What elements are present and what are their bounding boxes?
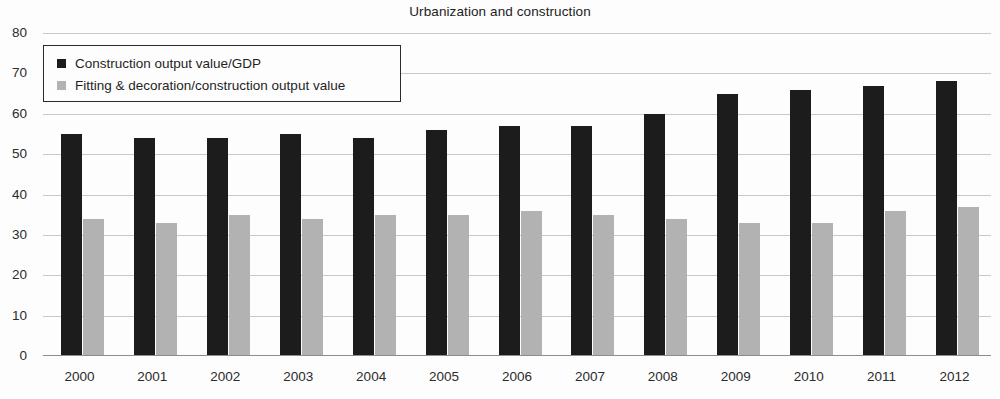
bar[interactable] — [302, 219, 323, 356]
legend-swatch-icon — [57, 81, 66, 90]
bar[interactable] — [666, 219, 687, 356]
bar[interactable] — [280, 134, 301, 356]
legend-label: Fitting & decoration/construction output… — [75, 78, 345, 93]
y-tick-label: 70 — [0, 65, 27, 80]
x-tick-label: 2010 — [779, 369, 839, 384]
legend-label: Construction output value/GDP — [75, 56, 261, 71]
bar[interactable] — [499, 126, 520, 356]
x-tick-label: 2001 — [122, 369, 182, 384]
bar[interactable] — [448, 215, 469, 356]
x-tick-label: 2009 — [706, 369, 766, 384]
bar[interactable] — [375, 215, 396, 356]
bar-group — [717, 33, 760, 356]
x-tick-label: 2004 — [341, 369, 401, 384]
bar[interactable] — [83, 219, 104, 356]
bar[interactable] — [958, 207, 979, 356]
chart-legend: Construction output value/GDPFitting & d… — [43, 45, 401, 102]
bar-group — [644, 33, 687, 356]
bar[interactable] — [426, 130, 447, 356]
bar[interactable] — [790, 90, 811, 356]
bar[interactable] — [863, 86, 884, 357]
bar-group — [499, 33, 542, 356]
x-tick-label: 2003 — [268, 369, 328, 384]
bar[interactable] — [61, 134, 82, 356]
bar[interactable] — [521, 211, 542, 356]
bar-group — [571, 33, 614, 356]
y-tick-label: 40 — [0, 187, 27, 202]
y-tick-label: 20 — [0, 267, 27, 282]
legend-entry[interactable]: Construction output value/GDP — [57, 53, 400, 74]
x-tick-label: 2008 — [633, 369, 693, 384]
y-tick-label: 80 — [0, 25, 27, 40]
bar[interactable] — [571, 126, 592, 356]
bar-group — [426, 33, 469, 356]
bar[interactable] — [885, 211, 906, 356]
bar-group — [936, 33, 979, 356]
x-tick-label: 2007 — [560, 369, 620, 384]
x-tick-label: 2005 — [414, 369, 474, 384]
chart-container: Urbanization and construction 0102030405… — [0, 0, 1000, 399]
y-tick-label: 30 — [0, 227, 27, 242]
bar-group — [790, 33, 833, 356]
x-tick-label: 2000 — [49, 369, 109, 384]
x-axis-line — [43, 355, 991, 357]
x-tick-label: 2012 — [925, 369, 985, 384]
bar[interactable] — [207, 138, 228, 356]
bar-group — [863, 33, 906, 356]
x-tick-label: 2011 — [852, 369, 912, 384]
bar[interactable] — [156, 223, 177, 356]
y-tick-label: 60 — [0, 106, 27, 121]
x-tick-label: 2002 — [195, 369, 255, 384]
bar[interactable] — [812, 223, 833, 356]
chart-title: Urbanization and construction — [0, 4, 1000, 19]
x-tick-label: 2006 — [487, 369, 547, 384]
y-tick-label: 0 — [0, 348, 27, 363]
bar[interactable] — [739, 223, 760, 356]
bar[interactable] — [353, 138, 374, 356]
bar[interactable] — [936, 81, 957, 356]
bar[interactable] — [717, 94, 738, 356]
legend-entry[interactable]: Fitting & decoration/construction output… — [57, 75, 400, 96]
bar[interactable] — [593, 215, 614, 356]
y-tick-label: 50 — [0, 146, 27, 161]
bar[interactable] — [134, 138, 155, 356]
legend-swatch-icon — [57, 59, 66, 68]
bar[interactable] — [229, 215, 250, 356]
y-tick-label: 10 — [0, 308, 27, 323]
bar[interactable] — [644, 114, 665, 356]
